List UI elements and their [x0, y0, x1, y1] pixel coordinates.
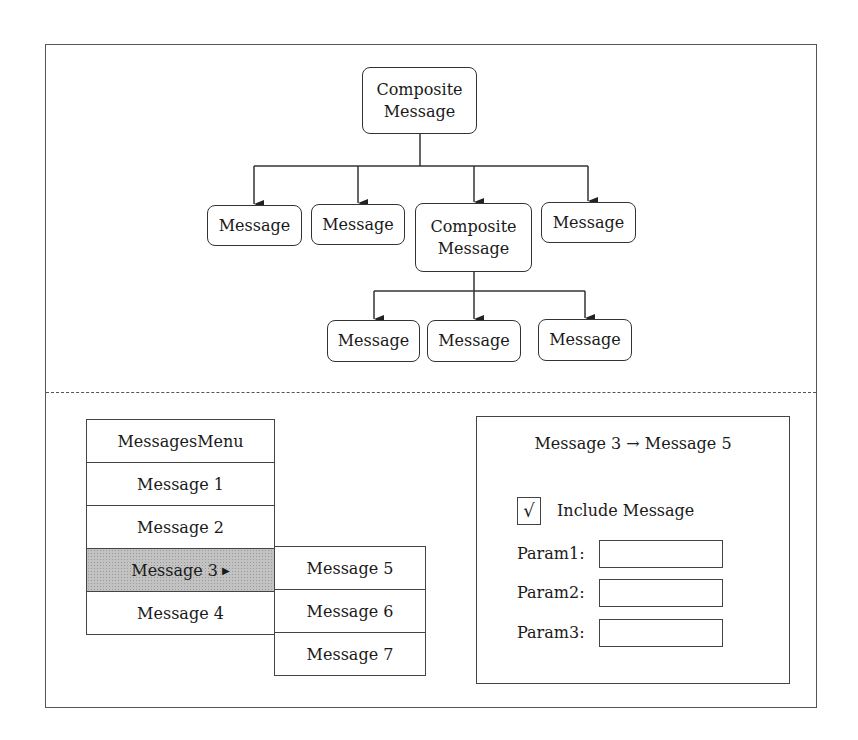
message-node: Message	[311, 204, 405, 245]
submenu-item-message-7[interactable]: Message 7	[274, 632, 426, 676]
node-label: Message	[338, 330, 410, 352]
submenu-arrow-icon: ▶	[222, 565, 230, 576]
param2-input[interactable]	[599, 579, 723, 607]
message-node: Message	[207, 205, 302, 246]
menu-item-message-3[interactable]: Message 3 ▶	[86, 548, 275, 592]
root-composite-node: Composite Message	[362, 67, 477, 134]
param3-label: Param3:	[517, 619, 585, 647]
param2-label: Param2:	[517, 579, 585, 607]
node-label: Message	[376, 101, 462, 123]
include-message-label: Include Message	[557, 497, 694, 525]
node-label: Message	[430, 238, 516, 260]
child-composite-node: Composite Message	[415, 203, 532, 272]
node-label: Composite	[376, 79, 462, 101]
menu-item-label: Message 4	[137, 604, 224, 623]
menu-item-label: Message 1	[137, 475, 224, 494]
message-node: Message	[541, 202, 636, 243]
menu-item-label: Message 7	[307, 645, 394, 664]
section-divider	[46, 392, 816, 393]
message-node: Message	[538, 319, 632, 361]
menu-item-message-2[interactable]: Message 2	[86, 505, 275, 549]
message-settings-panel: Message 3 → Message 5 √ Include Message …	[476, 416, 790, 684]
include-message-checkbox[interactable]: √	[517, 497, 541, 525]
node-label: Message	[219, 215, 291, 237]
param1-label: Param1:	[517, 540, 585, 568]
menu-item-label: Message 6	[307, 602, 394, 621]
panel-title: Message 3 → Message 5	[477, 434, 789, 453]
menu-item-label: Message 5	[307, 559, 394, 578]
message-node: Message	[327, 320, 420, 362]
menu-item-label: Message 3	[131, 561, 218, 580]
menu-item-label: Message 2	[137, 518, 224, 537]
message-node: Message	[427, 320, 521, 362]
menu-item-message-4[interactable]: Message 4	[86, 591, 275, 635]
node-label: Message	[322, 214, 394, 236]
checkmark-icon: √	[523, 500, 534, 521]
param1-input[interactable]	[599, 540, 723, 568]
submenu-item-message-6[interactable]: Message 6	[274, 589, 426, 633]
node-label: Composite	[430, 216, 516, 238]
menu-item-message-1[interactable]: Message 1	[86, 462, 275, 506]
node-label: Message	[438, 330, 510, 352]
node-label: Message	[553, 212, 625, 234]
menu-title: MessagesMenu	[86, 419, 275, 463]
submenu-item-message-5[interactable]: Message 5	[274, 546, 426, 590]
node-label: Message	[549, 329, 621, 351]
param3-input[interactable]	[599, 619, 723, 647]
menu-title-label: MessagesMenu	[117, 432, 243, 451]
